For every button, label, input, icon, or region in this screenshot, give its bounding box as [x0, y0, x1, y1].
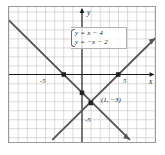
- point-marker-intersection: [89, 101, 94, 106]
- point-marker-x-intercept-line1: [116, 72, 121, 77]
- equation-legend-box: y = x − 4 y = −x − 2: [71, 27, 127, 49]
- legend-equation-1: y = x − 4: [75, 29, 124, 38]
- legend-equation-2: y = −x − 2: [75, 38, 124, 47]
- point-marker-x-intercept-line2: [61, 72, 66, 77]
- line-y-equals-x-minus-4: [53, 38, 155, 139]
- point-marker-y-intercept-line2: [80, 91, 85, 96]
- graph-figure: -5 5 5 -5 y x y = x − 4 y = −x − 2 (1, −…: [0, 0, 165, 155]
- intersection-point-label: (1, −3): [101, 97, 121, 104]
